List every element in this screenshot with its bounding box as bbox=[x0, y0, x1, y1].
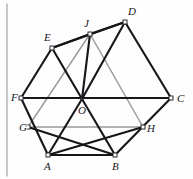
vertex-markers-layer bbox=[19, 20, 173, 157]
figure-canvas: ABCDEFOGHJ bbox=[0, 0, 193, 179]
vertex-marker-a bbox=[46, 153, 50, 157]
vertex-label-o: O bbox=[78, 104, 86, 116]
segment-E-F bbox=[21, 48, 52, 98]
vertex-label-a: A bbox=[43, 160, 51, 172]
vertex-label-f: F bbox=[10, 91, 18, 103]
vertex-label-g: G bbox=[19, 121, 27, 133]
vertex-label-b: B bbox=[112, 160, 119, 172]
vertex-labels-layer: ABCDEFOGHJ bbox=[10, 5, 185, 172]
segment-C-D bbox=[125, 22, 171, 98]
vertex-marker-j bbox=[88, 32, 92, 36]
segment-E-J bbox=[52, 34, 90, 48]
segment-O-E bbox=[52, 48, 82, 99]
vertex-label-h: H bbox=[146, 122, 156, 134]
vertex-marker-h bbox=[141, 125, 145, 129]
vertex-marker-b bbox=[113, 153, 117, 157]
vertex-marker-o bbox=[80, 97, 84, 101]
vertex-marker-c bbox=[169, 96, 173, 100]
vertex-marker-e bbox=[50, 46, 54, 50]
segment-J-H bbox=[90, 34, 143, 127]
vertex-marker-d bbox=[123, 20, 127, 24]
vertex-label-c: C bbox=[177, 92, 185, 104]
vertex-label-j: J bbox=[84, 17, 90, 29]
geometry-figure: ABCDEFOGHJ bbox=[0, 0, 193, 179]
vertex-marker-f bbox=[19, 96, 23, 100]
vertex-label-e: E bbox=[43, 31, 51, 43]
vertex-label-d: D bbox=[127, 5, 136, 17]
